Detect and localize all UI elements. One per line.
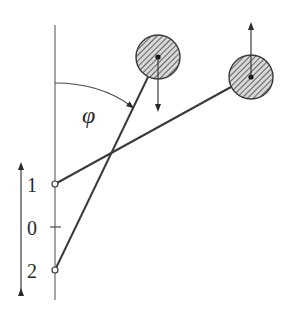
position-label-0: 0 [27,217,37,239]
position-label-1: 1 [27,174,37,196]
rod-2 [55,77,148,270]
position-label-2: 2 [27,260,37,282]
angle-label: φ [82,102,95,128]
pivot-1 [52,181,58,187]
pivot-2 [52,267,58,273]
pendulum-diagram: φ 1 0 2 [0,0,292,316]
